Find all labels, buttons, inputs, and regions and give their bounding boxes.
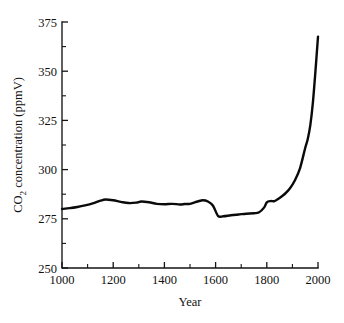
data-line-co2-concentration bbox=[62, 37, 318, 217]
x-axis-title: Year bbox=[178, 295, 202, 309]
x-tick-label: 1400 bbox=[152, 273, 177, 287]
x-axis-title-text: Year bbox=[178, 295, 202, 309]
axis-lines bbox=[62, 22, 318, 268]
co2-concentration-line-chart: 250275300325350375 100012001400160018002… bbox=[0, 0, 344, 323]
y-axis-title-text: CO2 concentration (ppmV) bbox=[11, 77, 28, 213]
y-tick-label: 375 bbox=[38, 16, 57, 30]
x-tick-label: 1200 bbox=[101, 273, 126, 287]
y-tick-label: 325 bbox=[38, 114, 57, 128]
axes-group bbox=[62, 22, 318, 268]
x-tick-label: 1000 bbox=[50, 273, 75, 287]
x-tick-label: 2000 bbox=[306, 273, 331, 287]
chart-page: 250275300325350375 100012001400160018002… bbox=[0, 0, 344, 323]
x-tick-label: 1800 bbox=[254, 273, 279, 287]
data-series-group bbox=[62, 37, 318, 217]
x-tick-label: 1600 bbox=[203, 273, 228, 287]
x-axis-tick-labels: 100012001400160018002000 bbox=[50, 273, 331, 287]
y-axis-title: CO2 concentration (ppmV) bbox=[11, 77, 28, 213]
y-tick-label: 300 bbox=[38, 163, 57, 177]
y-axis-title-prefix: CO bbox=[11, 195, 25, 212]
y-tick-label: 275 bbox=[38, 212, 57, 226]
y-axis-title-main: concentration (ppmV) bbox=[11, 77, 25, 191]
y-tick-label: 350 bbox=[38, 65, 57, 79]
y-axis-tick-labels: 250275300325350375 bbox=[38, 16, 57, 276]
